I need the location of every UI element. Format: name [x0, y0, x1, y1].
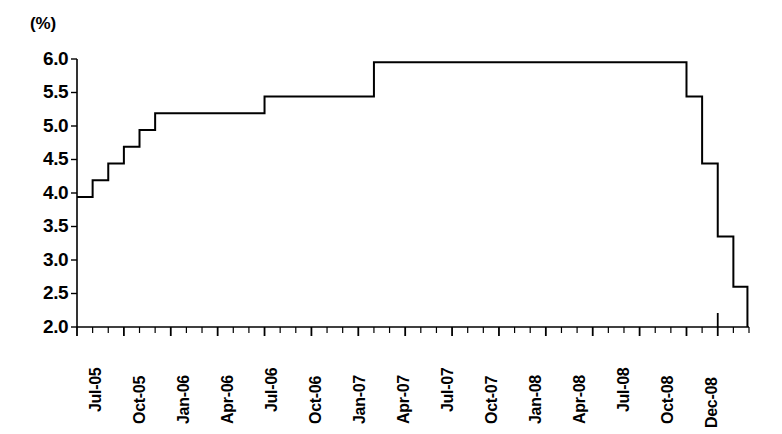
axis-lines — [77, 59, 749, 327]
y-axis-ticks — [71, 59, 77, 327]
chart-plot-area — [0, 0, 782, 434]
chart-container: (%) 6.0 5.5 5.0 4.5 4.0 3.5 3.0 2.5 2.0 … — [0, 0, 782, 434]
x-axis-ticks — [77, 313, 749, 336]
series-line-policy-rate — [77, 62, 747, 327]
